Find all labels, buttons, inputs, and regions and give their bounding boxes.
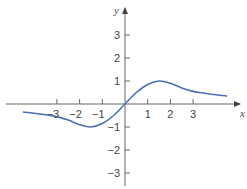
x-tick-label: 3 [190, 108, 196, 120]
y-tick-label: 1 [114, 75, 120, 87]
chart: x y −3−2−1123 −3−2−1123 [0, 0, 247, 189]
x-ticks: −3−2−1123 [47, 99, 197, 120]
y-tick-label: 2 [114, 52, 120, 64]
x-tick-label: 2 [167, 108, 173, 120]
x-tick-label: −2 [69, 108, 82, 120]
y-tick-label: 3 [114, 29, 120, 41]
x-tick-label: −1 [92, 108, 105, 120]
y-tick-label: −3 [107, 167, 120, 179]
y-tick-label: −1 [107, 121, 120, 133]
x-axis-label: x [239, 107, 245, 119]
x-tick-label: 1 [145, 108, 151, 120]
y-axis-label: y [113, 4, 119, 16]
y-tick-label: −2 [107, 144, 120, 156]
x-tick-label: −3 [47, 108, 60, 120]
